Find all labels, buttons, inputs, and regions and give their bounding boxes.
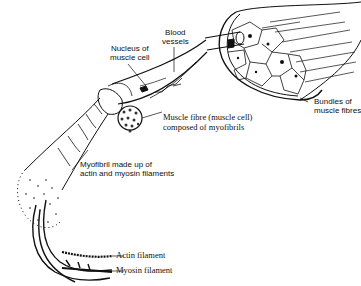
label-line: actin and myosin filaments	[80, 169, 174, 178]
bundles-label: Bundles of muscle fibres	[314, 97, 361, 115]
label-line: muscle fibres	[314, 106, 361, 115]
filaments-drawing	[33, 200, 112, 282]
myofibril-label: Myofibril made up of actin and myosin fi…	[80, 160, 174, 178]
label-line: Bundles of	[314, 97, 361, 106]
label-line: muscle cell	[110, 53, 150, 62]
blood-vessels-label: Blood vessels	[162, 28, 189, 46]
label-line: Myofibril made up of	[80, 160, 174, 169]
leader-lines	[72, 47, 308, 271]
muscle-bundle-drawing	[205, 2, 361, 100]
nucleus-label: Nucleus of muscle cell	[110, 44, 150, 62]
muscle-fibre-label: Muscle fibre (muscle cell) composed of m…	[163, 113, 252, 132]
label-line: vessels	[162, 37, 189, 46]
label-line: Blood	[162, 28, 189, 37]
myosin-label: Myosin filament	[116, 266, 172, 276]
label-line: Nucleus of	[110, 44, 150, 53]
actin-label: Actin filament	[116, 251, 165, 261]
label-line: composed of myofibrils	[163, 123, 252, 133]
